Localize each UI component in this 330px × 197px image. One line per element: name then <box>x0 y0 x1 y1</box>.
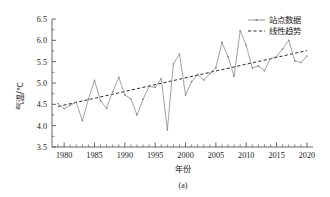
tick-labels: 3.54.04.55.05.56.06.51980198519901995200… <box>37 15 315 160</box>
y-tick-label: 3.5 <box>37 143 47 152</box>
y-tick-label: 6.0 <box>37 36 47 45</box>
x-tick-label: 2005 <box>208 151 224 160</box>
axes <box>52 19 313 147</box>
x-tick-label: 2010 <box>238 151 254 160</box>
y-tick-label: 4.0 <box>37 122 47 131</box>
x-tick-label: 1990 <box>117 151 133 160</box>
x-tick-label: 1985 <box>86 151 102 160</box>
y-tick-label: 6.5 <box>37 15 47 24</box>
legend-item-label: 站点数据 <box>269 15 302 25</box>
x-tick-label: 1980 <box>56 151 72 160</box>
x-tick-label: 2020 <box>299 151 315 160</box>
trend-line-series <box>58 51 307 107</box>
temperature-trend-chart: 3.54.04.55.05.56.06.51980198519901995200… <box>0 0 330 197</box>
y-tick-label: 5.0 <box>37 79 47 88</box>
x-tick-label: 2000 <box>177 151 193 160</box>
y-axis-title: 气温/℃ <box>15 82 25 110</box>
station-data-series <box>57 30 308 131</box>
x-tick-label: 1995 <box>147 151 163 160</box>
y-tick-label: 5.5 <box>37 58 47 67</box>
legend-item-label: 线性趋势 <box>269 26 302 36</box>
figure-caption: (a) <box>178 181 187 190</box>
x-axis-title: 年份 <box>175 164 191 174</box>
legend: 站点数据线性趋势 <box>248 15 302 36</box>
y-tick-label: 4.5 <box>37 100 47 109</box>
figure-container: 3.54.04.55.05.56.06.51980198519901995200… <box>0 0 330 197</box>
x-tick-label: 2015 <box>268 151 284 160</box>
